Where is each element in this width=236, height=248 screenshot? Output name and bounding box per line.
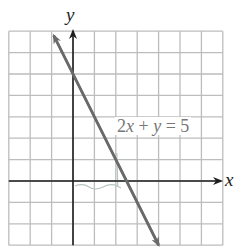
line-segment-down (54, 35, 159, 245)
equation-label: 2x + y = 5 (115, 117, 191, 135)
x-axis-label: x (225, 170, 233, 189)
y-axis-label: y (66, 5, 74, 24)
graph-figure: y x 2x + y = 5 (0, 0, 236, 248)
equation-coef: 2 (117, 116, 126, 136)
grid-lines (9, 31, 223, 245)
line-2x-plus-y-equals-5 (54, 35, 159, 245)
equation-plus: + (134, 116, 153, 136)
equation-x: x (126, 116, 134, 136)
equation-y: y (153, 116, 161, 136)
equation-rhs: = 5 (161, 116, 189, 136)
